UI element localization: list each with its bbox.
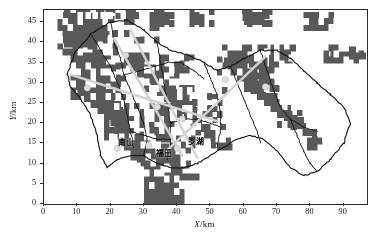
x-tick-mark: [110, 203, 111, 206]
y-tick-label: 20: [0, 117, 36, 127]
x-tick-label: 0: [41, 207, 45, 217]
x-tick-mark: [309, 203, 310, 206]
x-tick-mark: [43, 203, 44, 206]
x-tick-label: 40: [172, 207, 180, 217]
map-plot-area: 南山福田罗湖: [43, 9, 368, 205]
x-tick-mark: [76, 203, 77, 206]
x-tick-mark: [143, 203, 144, 206]
x-tick-label: 50: [205, 207, 213, 217]
y-tick-label: 25: [0, 97, 36, 107]
figure-root: 南山福田罗湖 010203040506070809005101520253035…: [0, 0, 378, 239]
vector-overlay-layer: [44, 10, 367, 204]
place-label-luohu: 罗湖: [188, 138, 204, 146]
y-tick-mark: [40, 183, 43, 184]
y-tick-label: 45: [0, 16, 36, 26]
x-tick-label: 20: [106, 207, 114, 217]
y-tick-label: 10: [0, 158, 36, 168]
x-axis-title-unit: /km: [200, 219, 215, 229]
x-tick-mark: [243, 203, 244, 206]
x-tick-label: 80: [305, 207, 313, 217]
y-tick-mark: [40, 21, 43, 22]
y-tick-label: 30: [0, 77, 36, 87]
y-tick-mark: [40, 41, 43, 42]
y-tick-label: 15: [0, 137, 36, 147]
y-axis-title-variable: Y: [8, 116, 18, 121]
y-tick-mark: [40, 122, 43, 123]
x-tick-mark: [276, 203, 277, 206]
y-axis-title: Y/km: [8, 81, 18, 141]
y-tick-mark: [40, 203, 43, 204]
y-tick-label: 0: [0, 198, 36, 208]
x-tick-label: 30: [139, 207, 147, 217]
y-tick-mark: [40, 142, 43, 143]
x-axis-title: X/km: [43, 219, 366, 229]
x-tick-mark: [343, 203, 344, 206]
place-label-futian: 福田: [156, 150, 172, 158]
x-tick-label: 10: [72, 207, 80, 217]
x-tick-label: 90: [339, 207, 347, 217]
y-axis-title-unit: /km: [8, 101, 18, 115]
x-tick-label: 70: [272, 207, 280, 217]
y-tick-mark: [40, 62, 43, 63]
x-tick-mark: [176, 203, 177, 206]
y-tick-mark: [40, 82, 43, 83]
y-tick-label: 5: [0, 178, 36, 188]
y-tick-label: 40: [0, 36, 36, 46]
y-tick-mark: [40, 102, 43, 103]
y-tick-label: 35: [0, 57, 36, 67]
y-tick-mark: [40, 163, 43, 164]
place-label-nanshan: 南山: [118, 139, 134, 147]
x-tick-mark: [209, 203, 210, 206]
x-tick-label: 60: [239, 207, 247, 217]
